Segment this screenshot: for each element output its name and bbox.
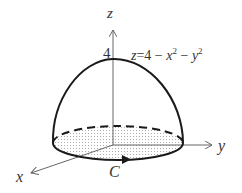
curve-c-label: C <box>109 164 120 180</box>
z-intercept-label: 4 <box>103 46 111 61</box>
paraboloid-diagram <box>0 0 242 193</box>
x-axis-label: x <box>16 169 23 185</box>
y-axis-label: y <box>218 138 225 154</box>
surface-equation: z=4 − x2 − y2 <box>131 47 203 63</box>
eq-minus-2: − <box>180 48 188 63</box>
eq-y-exp: 2 <box>198 46 203 56</box>
eq-minus-1: − <box>155 48 163 63</box>
eq-const: 4 <box>144 48 151 63</box>
eq-x-exp: 2 <box>172 46 177 56</box>
z-axis-label: z <box>107 6 113 21</box>
